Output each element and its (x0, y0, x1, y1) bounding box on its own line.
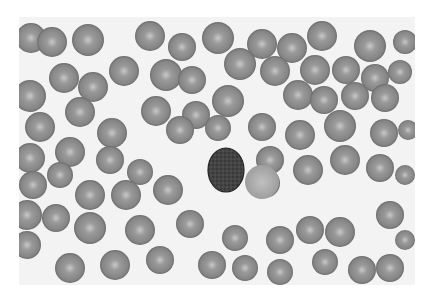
red-blood-cell (376, 254, 404, 282)
nucleated-cell (208, 148, 244, 192)
red-blood-cell (222, 225, 248, 251)
red-blood-cell (47, 162, 73, 188)
red-blood-cell (25, 112, 55, 142)
red-blood-cell (72, 24, 104, 56)
red-blood-cell (312, 249, 338, 275)
blood-smear-micrograph (19, 17, 415, 285)
red-blood-cell (74, 212, 106, 244)
red-blood-cell (135, 21, 165, 51)
red-blood-cell (388, 60, 412, 84)
red-blood-cell (232, 255, 258, 281)
red-blood-cell (198, 251, 226, 279)
red-blood-cell (324, 110, 356, 142)
red-blood-cell (283, 80, 313, 110)
red-blood-cell (205, 115, 231, 141)
red-blood-cell (146, 246, 174, 274)
red-blood-cell (307, 21, 337, 51)
red-blood-cell (212, 85, 244, 117)
red-blood-cell (332, 56, 360, 84)
red-blood-cell (395, 230, 415, 250)
red-blood-cell (49, 63, 79, 93)
red-blood-cell (376, 201, 404, 229)
red-blood-cell (260, 56, 290, 86)
red-blood-cell (168, 33, 196, 61)
red-blood-cell (266, 226, 294, 254)
red-blood-cell (300, 55, 330, 85)
pale-red-blood-cell (245, 165, 279, 199)
red-blood-cell (19, 171, 47, 199)
red-blood-cell (176, 210, 204, 238)
red-blood-cell (97, 118, 127, 148)
red-blood-cell (366, 154, 394, 182)
red-blood-cell (202, 22, 234, 54)
red-blood-cell (42, 204, 70, 232)
micrograph-canvas (19, 17, 415, 285)
red-blood-cell (37, 27, 67, 57)
red-blood-cell (310, 86, 338, 114)
red-blood-cell (96, 146, 124, 174)
red-blood-cell (248, 113, 276, 141)
red-blood-cell (224, 48, 256, 80)
red-blood-cell (296, 216, 324, 244)
red-blood-cell (166, 116, 194, 144)
red-blood-cell (395, 165, 415, 185)
red-blood-cell (341, 82, 369, 110)
red-blood-cell (325, 217, 355, 247)
red-blood-cell (330, 145, 360, 175)
red-blood-cell (370, 119, 398, 147)
red-blood-cell (150, 59, 182, 91)
red-blood-cell (109, 56, 139, 86)
red-blood-cell (348, 256, 376, 284)
red-blood-cell (267, 259, 293, 285)
red-blood-cell (354, 30, 386, 62)
red-blood-cell (141, 96, 171, 126)
red-blood-cell (75, 180, 105, 210)
red-blood-cell (111, 180, 141, 210)
red-blood-cell (100, 250, 130, 280)
red-blood-cell (371, 84, 399, 112)
red-blood-cell (153, 175, 183, 205)
red-blood-cell (285, 120, 315, 150)
red-blood-cell (293, 155, 323, 185)
red-blood-cell (65, 97, 95, 127)
red-blood-cell (55, 253, 85, 283)
red-blood-cell (178, 66, 206, 94)
red-blood-cell (125, 215, 155, 245)
